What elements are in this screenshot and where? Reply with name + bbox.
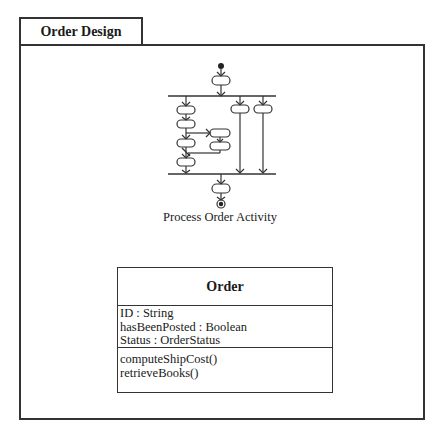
operation: retrieveBooks() [120, 366, 330, 380]
class-attributes: ID : String hasBeenPosted : Boolean Stat… [118, 306, 332, 348]
operation: computeShipCost() [120, 352, 330, 366]
final-node-icon [219, 202, 223, 206]
attribute: hasBeenPosted : Boolean [120, 321, 330, 335]
class-name: Order [118, 268, 332, 306]
initial-node-icon [218, 63, 224, 69]
package-name: Order Design [40, 24, 121, 40]
package-tab: Order Design [19, 17, 143, 44]
activity-caption: Process Order Activity [120, 210, 320, 225]
class-operations: computeShipCost() retrieveBooks() [118, 348, 332, 384]
attribute: Status : OrderStatus [120, 334, 330, 348]
attribute: ID : String [120, 307, 330, 321]
activity-diagram-icon [166, 62, 281, 212]
class-box: Order ID : String hasBeenPosted : Boolea… [117, 267, 333, 393]
